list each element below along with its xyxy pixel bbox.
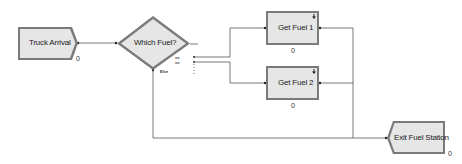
truck-arrival-label: Truck Arrival: [29, 38, 71, 47]
flowchart-canvas: [0, 0, 462, 164]
which-fuel-label: Which Fuel?: [134, 38, 176, 47]
get-fuel-2-counter: 0: [291, 102, 295, 109]
truck-arrival-counter: 0: [76, 55, 80, 62]
else-label: Else: [160, 69, 168, 74]
exit-fuel-station-label: Exit Fuel Station: [394, 133, 449, 142]
get-fuel-1-counter: 0: [291, 47, 295, 54]
get-fuel-2-label: Get Fuel 2: [278, 78, 313, 87]
true-mark-2: ==: [175, 60, 180, 65]
exit-fuel-station-counter: 0: [448, 150, 452, 157]
get-fuel-1-label: Get Fuel 1: [278, 23, 313, 32]
